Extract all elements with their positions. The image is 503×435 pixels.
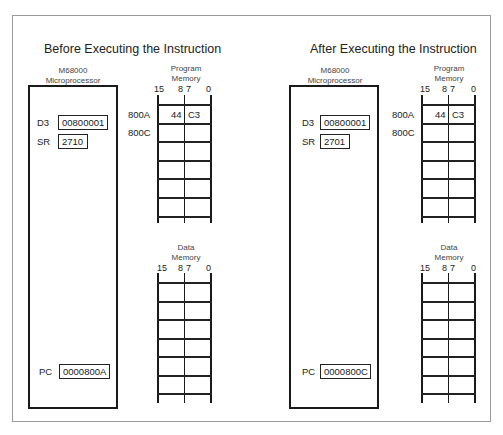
memory-row-line [157, 178, 212, 180]
program-memory-label: Program Memory [421, 64, 477, 84]
cpu-label-line1: M68000 [295, 66, 375, 76]
memory-low-byte: C3 [452, 109, 464, 120]
memory-row-line [421, 160, 476, 162]
pc-label: PC [39, 366, 52, 377]
bit-label-8: 8 [178, 263, 183, 273]
bit-label-7: 7 [186, 84, 191, 94]
d3-register-value: 00800001 [320, 115, 370, 130]
memory-left-edge [421, 95, 423, 223]
program-memory-label-line1: Program [421, 64, 477, 74]
memory-row-line [421, 104, 476, 106]
address-800c: 800C [392, 127, 415, 138]
program-memory-label: Program Memory [158, 64, 214, 84]
program-memory-label-line2: Memory [421, 74, 477, 84]
bit-label-0: 0 [206, 84, 211, 94]
memory-high-byte: 44 [171, 109, 182, 120]
memory-right-edge [210, 95, 212, 223]
bit-label-0: 0 [206, 263, 211, 273]
memory-row-line [421, 338, 476, 340]
memory-row-line [157, 393, 212, 395]
data-memory-label-line1: Data [421, 243, 477, 253]
sr-label: SR [37, 136, 50, 147]
d3-label: D3 [37, 117, 49, 128]
memory-row-line [157, 104, 212, 106]
memory-row-line [157, 197, 212, 199]
sr-register-value: 2710 [58, 134, 88, 149]
memory-row-line [421, 282, 476, 284]
memory-row-line [421, 393, 476, 395]
data-memory-label-line2: Memory [158, 253, 214, 263]
cpu-label: M68000 Microprocessor [295, 66, 375, 86]
data-memory-label-line2: Memory [421, 253, 477, 263]
address-800a: 800A [392, 109, 414, 120]
sr-label: SR [302, 136, 315, 147]
memory-row-line [421, 216, 476, 218]
bit-label-7: 7 [450, 263, 455, 273]
memory-row-line [421, 375, 476, 377]
memory-right-edge [474, 95, 476, 223]
memory-high-byte: 44 [435, 109, 446, 120]
bit-label-15: 15 [420, 84, 430, 94]
memory-low-byte: C3 [188, 109, 200, 120]
bit-label-15: 15 [157, 263, 167, 273]
cpu-label-line1: M68000 [33, 66, 113, 76]
bit-label-7: 7 [450, 84, 455, 94]
memory-row-line [421, 197, 476, 199]
memory-row-line [421, 301, 476, 303]
memory-row-line [157, 301, 212, 303]
sr-register-value: 2701 [320, 134, 350, 149]
panel-title: After Executing the Instruction [310, 42, 477, 56]
memory-row-line [157, 356, 212, 358]
bit-label-8: 8 [178, 84, 183, 94]
bit-label-8: 8 [442, 263, 447, 273]
program-memory-label-line1: Program [158, 64, 214, 74]
memory-row-line [157, 319, 212, 321]
bit-label-15: 15 [420, 263, 430, 273]
memory-row-line [421, 319, 476, 321]
pc-register-value: 0000800C [320, 364, 371, 379]
d3-register-value: 00800001 [58, 115, 108, 130]
memory-row-line [421, 356, 476, 358]
memory-byte-divider [184, 95, 185, 223]
memory-row-line [421, 141, 476, 143]
memory-row-line [157, 282, 212, 284]
memory-row-line [157, 216, 212, 218]
data-memory-label-line1: Data [158, 243, 214, 253]
bit-label-7: 7 [186, 263, 191, 273]
memory-row-line [157, 123, 212, 125]
program-memory-label-line2: Memory [158, 74, 214, 84]
panel-title: Before Executing the Instruction [44, 42, 221, 56]
pc-label: PC [302, 366, 315, 377]
data-memory-label: Data Memory [158, 243, 214, 263]
memory-row-line [157, 375, 212, 377]
bit-label-15: 15 [154, 84, 164, 94]
bit-label-0: 0 [471, 84, 476, 94]
memory-byte-divider [448, 95, 449, 223]
memory-row-line [157, 338, 212, 340]
cpu-label: M68000 Microprocessor [33, 66, 113, 86]
address-800a: 800A [128, 109, 150, 120]
memory-row-line [421, 123, 476, 125]
data-memory-label: Data Memory [421, 243, 477, 263]
memory-left-edge [157, 95, 159, 223]
memory-row-line [157, 141, 212, 143]
address-800c: 800C [128, 127, 151, 138]
memory-row-line [421, 178, 476, 180]
memory-row-line [157, 160, 212, 162]
pc-register-value: 0000800A [59, 364, 110, 379]
d3-label: D3 [302, 117, 314, 128]
bit-label-8: 8 [442, 84, 447, 94]
bit-label-0: 0 [471, 263, 476, 273]
